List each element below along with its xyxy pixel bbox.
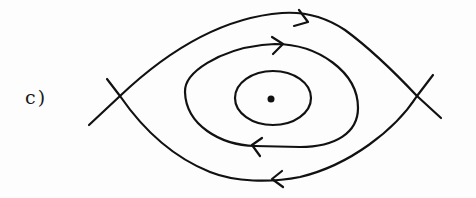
upper-separatrix [89,13,441,125]
phase-portrait-figure: c) [0,0,476,198]
center-point [268,96,275,103]
middle-orbit [185,44,358,147]
middle-top-arrow-icon [272,37,283,54]
lower-separatrix [107,75,433,181]
phase-portrait-drawing [0,0,476,198]
